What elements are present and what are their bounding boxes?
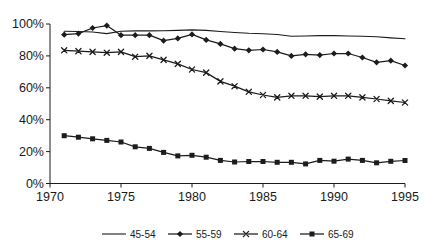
series-65-69	[62, 133, 408, 166]
chart-page: 0%20%40%60%80%100%1970197519801985199019…	[0, 0, 429, 252]
series-60-64	[62, 48, 408, 105]
x-tick-label: 1990	[320, 190, 348, 204]
y-tick-label: 80%	[19, 49, 44, 63]
legend-item-65-69: 65-69	[300, 229, 354, 240]
line-chart: 0%20%40%60%80%100%1970197519801985199019…	[0, 0, 429, 252]
series-55-59	[61, 23, 408, 69]
x-tick-label: 1980	[178, 190, 206, 204]
legend-item-60-64: 60-64	[234, 229, 288, 240]
x-tick-label: 1975	[107, 190, 135, 204]
y-tick-label: 0%	[26, 177, 44, 191]
axes	[46, 24, 405, 188]
x-tick-label: 1985	[249, 190, 277, 204]
legend-label: 65-69	[328, 229, 354, 240]
legend-label: 45-54	[130, 229, 156, 240]
series-line-55-59	[64, 26, 405, 66]
y-tick-label: 100%	[12, 17, 44, 31]
series-markers-65-69	[62, 133, 408, 166]
y-tick-label: 60%	[19, 81, 44, 95]
y-tick-label: 20%	[19, 145, 44, 159]
legend-item-55-59: 55-59	[168, 229, 222, 240]
legend-item-45-54: 45-54	[102, 229, 156, 240]
legend-label: 55-59	[196, 229, 222, 240]
x-tick-label: 1970	[36, 190, 64, 204]
axis-labels: 0%20%40%60%80%100%1970197519801985199019…	[12, 17, 419, 204]
legend-label: 60-64	[262, 229, 288, 240]
legend: 45-5455-5960-6465-69	[102, 229, 354, 240]
x-tick-label: 1995	[391, 190, 419, 204]
series-line-60-64	[64, 50, 405, 102]
y-tick-label: 40%	[19, 113, 44, 127]
